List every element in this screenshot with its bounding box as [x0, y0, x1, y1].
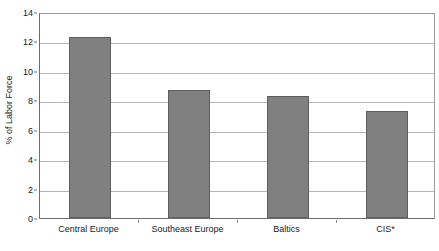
y-axis-tick-mark — [34, 189, 37, 190]
y-axis-title: % of Labor Force — [0, 0, 18, 219]
chart-figure: % of Labor Force 02468101214 Central Eur… — [0, 0, 439, 251]
bar — [168, 90, 210, 218]
y-axis-tick-mark — [34, 130, 37, 131]
y-axis-tick-label: 0 — [28, 214, 33, 224]
y-axis-tick-label: 10 — [23, 67, 33, 77]
y-axis-tick-label: 2 — [28, 185, 33, 195]
plot-area — [39, 13, 435, 219]
y-axis-tick-mark — [34, 101, 37, 102]
y-axis-tick-mark — [34, 71, 37, 72]
y-axis-tick-label: 14 — [23, 8, 33, 18]
y-axis-tick-mark — [34, 13, 37, 14]
x-axis-tick-labels: Central EuropeSoutheast EuropeBalticsCIS… — [39, 220, 435, 242]
bar — [366, 111, 408, 218]
bar — [69, 37, 111, 218]
y-axis-tick-label: 4 — [28, 155, 33, 165]
y-axis-tick-labels: 02468101214 — [18, 0, 37, 251]
x-axis-tick-label: Central Europe — [39, 224, 138, 234]
y-axis-tick-label: 8 — [28, 96, 33, 106]
y-axis-tick-label: 12 — [23, 37, 33, 47]
bar — [267, 96, 309, 218]
y-axis-title-text: % of Labor Force — [4, 75, 14, 144]
x-axis-tick-label: CIS* — [336, 224, 435, 234]
x-axis-tick-mark — [336, 220, 337, 223]
y-axis-tick-mark — [34, 160, 37, 161]
x-axis-tick-mark — [138, 220, 139, 223]
y-axis-tick-mark — [34, 219, 37, 220]
y-axis-tick-mark — [34, 42, 37, 43]
x-axis-tick-label: Baltics — [237, 224, 336, 234]
x-axis-tick-mark — [237, 220, 238, 223]
x-axis-tick-label: Southeast Europe — [138, 224, 237, 234]
y-axis-tick-label: 6 — [28, 126, 33, 136]
